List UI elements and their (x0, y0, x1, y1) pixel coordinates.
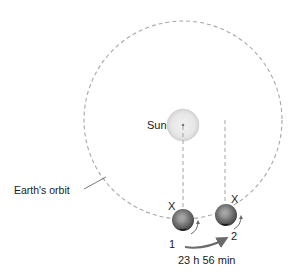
earth-1-x-label: X (168, 200, 176, 212)
orbit-label: Earth's orbit (14, 184, 70, 196)
orbital-motion-arrow (185, 239, 225, 248)
earth-1-highlight (177, 215, 185, 223)
sidereal-day-diagram: Earth's orbit Sun X 1 X 2 23 h 56 min (0, 0, 296, 278)
position-2-label: 2 (231, 230, 237, 242)
duration-label: 23 h 56 min (178, 254, 235, 266)
earth-2-x-label: X (231, 193, 239, 205)
sun-center-dot (182, 124, 185, 127)
orbit-leader-line (84, 177, 106, 189)
sun-label: Sun (147, 119, 167, 131)
position-1-label: 1 (169, 238, 175, 250)
earth-2-highlight (220, 210, 228, 218)
